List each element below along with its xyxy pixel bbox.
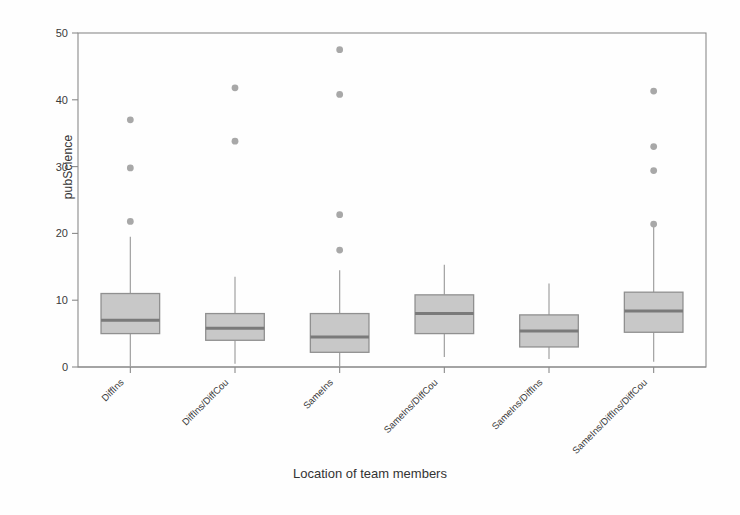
x-axis: DiffInsDiffIns/DiffCouSameInsSameIns/Dif… — [78, 367, 706, 456]
y-tick-label: 0 — [62, 361, 68, 373]
x-tick-label: SameIns/DiffIns/DiffCou — [570, 377, 649, 456]
y-tick-label: 20 — [56, 227, 68, 239]
y-axis-label: pubScience — [61, 107, 75, 227]
y-tick-label: 40 — [56, 94, 68, 106]
boxplot-figure: pubScience 01020304050 DiffInsDiffIns/Di… — [0, 0, 740, 515]
y-tick-label: 50 — [56, 27, 68, 39]
plot-canvas: 01020304050 DiffInsDiffIns/DiffCouSameIn… — [0, 0, 740, 515]
x-axis-label-wrap: Location of team members — [0, 466, 740, 481]
plot-frame — [78, 33, 706, 367]
x-axis-label: Location of team members — [293, 466, 447, 481]
x-tick-label: SameIns/DiffIns — [489, 376, 544, 431]
x-tick-label: SameIns/DiffCou — [381, 377, 439, 435]
x-tick-label: DiffIns/DiffCou — [180, 377, 231, 428]
y-tick-label: 10 — [56, 294, 68, 306]
x-tick-label: DiffIns — [99, 376, 126, 403]
x-tick-label: SameIns — [301, 376, 335, 410]
